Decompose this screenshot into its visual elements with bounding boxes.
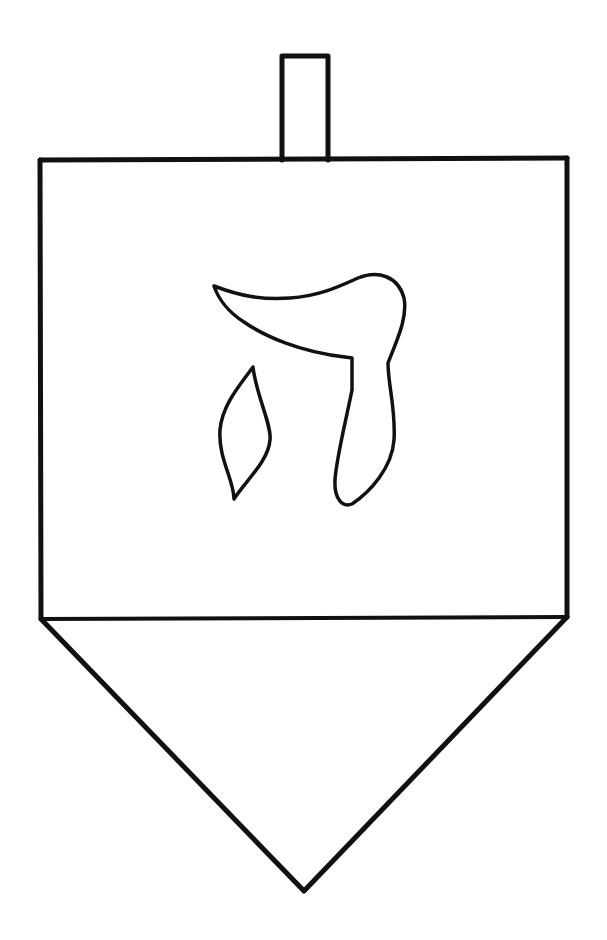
dreidel-drawing — [0, 0, 607, 940]
dreidel-top-edge — [40, 158, 567, 160]
dreidel-body-sides — [40, 158, 567, 619]
dreidel-svg — [0, 0, 607, 940]
letter-he-left-leg — [220, 367, 270, 499]
dreidel-handle — [282, 56, 328, 160]
dreidel-divider — [41, 617, 567, 619]
dreidel-bottom-point — [41, 617, 567, 891]
letter-he-main-stroke — [214, 275, 405, 505]
